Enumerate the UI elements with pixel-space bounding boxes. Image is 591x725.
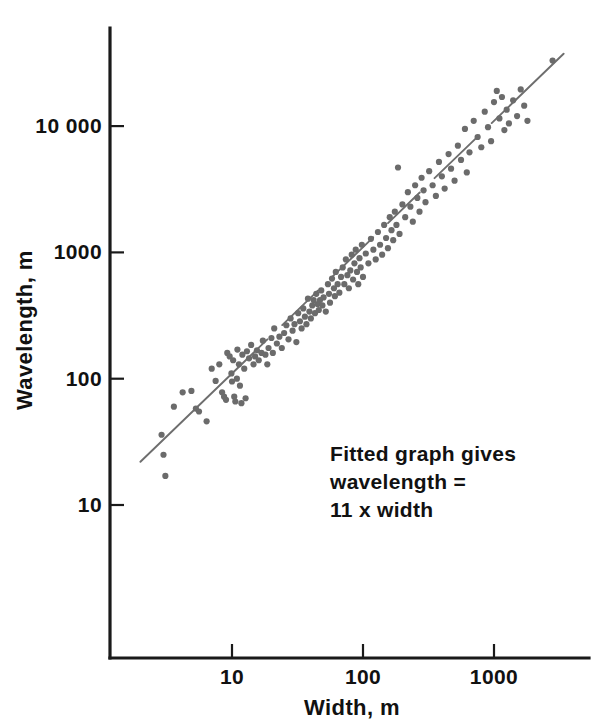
scatter-point bbox=[496, 115, 502, 121]
scatter-point bbox=[349, 252, 355, 258]
scatter-point bbox=[244, 348, 250, 354]
scatter-point bbox=[228, 370, 234, 376]
scatter-point bbox=[305, 296, 311, 302]
x-axis-tick-labels: 101001000 bbox=[220, 665, 518, 688]
scatter-point bbox=[216, 361, 222, 367]
scatter-point bbox=[338, 274, 344, 280]
scatter-point bbox=[420, 187, 426, 193]
scatter-point bbox=[518, 86, 524, 92]
scatter-point bbox=[494, 88, 500, 94]
scatter-point bbox=[363, 250, 369, 256]
scatter-point bbox=[329, 276, 335, 282]
scatter-point bbox=[264, 361, 270, 367]
scatter-point bbox=[333, 269, 339, 275]
scatter-point bbox=[351, 260, 357, 266]
scatter-point bbox=[475, 134, 481, 140]
scatter-point bbox=[270, 350, 276, 356]
fitted-regression-line bbox=[140, 54, 563, 462]
scatter-point bbox=[501, 127, 507, 133]
scatter-point bbox=[223, 397, 229, 403]
scatter-point bbox=[171, 404, 177, 410]
scatter-point bbox=[464, 169, 470, 175]
scatter-point bbox=[510, 97, 516, 103]
scatter-point bbox=[234, 346, 240, 352]
scatter-point bbox=[455, 143, 461, 149]
scatter-point bbox=[549, 58, 555, 64]
scatter-point bbox=[160, 452, 166, 458]
scatter-point bbox=[271, 325, 277, 331]
scatter-point bbox=[451, 178, 457, 184]
scatter-point bbox=[243, 395, 249, 401]
scatter-point bbox=[504, 107, 510, 113]
scatter-point bbox=[375, 229, 381, 235]
scatter-point bbox=[385, 245, 391, 251]
x-tick-label-10: 10 bbox=[220, 665, 244, 688]
scatter-point bbox=[234, 376, 240, 382]
scatter-point bbox=[358, 264, 364, 270]
scatter-point bbox=[232, 398, 238, 404]
scatter-point bbox=[285, 336, 291, 342]
scatter-point bbox=[274, 340, 280, 346]
scatter-point bbox=[319, 302, 325, 308]
scatter-point bbox=[302, 314, 308, 320]
y-axis-title: Wavelength, m bbox=[12, 250, 37, 410]
scatter-point-group bbox=[158, 58, 555, 479]
annotation-line-2: wavelength = bbox=[329, 470, 466, 493]
scatter-point bbox=[326, 291, 332, 297]
scatter-point bbox=[343, 256, 349, 262]
scatter-point bbox=[521, 103, 527, 109]
scatter-point bbox=[237, 383, 243, 389]
scatter-point bbox=[300, 305, 306, 311]
scatter-point bbox=[158, 432, 164, 438]
y-tick-label-1000: 1000 bbox=[54, 240, 102, 263]
scatter-point bbox=[462, 126, 468, 132]
scatter-point bbox=[279, 345, 285, 351]
scatter-point bbox=[327, 300, 333, 306]
scatter-point bbox=[416, 209, 422, 215]
scatter-point bbox=[340, 264, 346, 270]
scatter-point bbox=[458, 157, 464, 163]
scatter-point bbox=[524, 118, 530, 124]
scatter-point bbox=[442, 186, 448, 192]
scatter-point bbox=[230, 357, 236, 363]
scatter-point bbox=[426, 168, 432, 174]
y-tick-label-10: 10 bbox=[78, 493, 102, 516]
scatter-point bbox=[299, 325, 305, 331]
scatter-point bbox=[204, 418, 210, 424]
scatter-point bbox=[188, 388, 194, 394]
scatter-point bbox=[402, 214, 408, 220]
scatter-point bbox=[291, 321, 297, 327]
scatter-point bbox=[325, 281, 331, 287]
scatter-point bbox=[430, 182, 436, 188]
scatter-point bbox=[418, 175, 424, 181]
scatter-point bbox=[303, 321, 309, 327]
scatter-point bbox=[318, 287, 324, 293]
scatter-point bbox=[359, 242, 365, 248]
x-axis-ticks bbox=[232, 644, 494, 658]
scatter-point bbox=[360, 274, 366, 280]
y-tick-label-10000: 10 000 bbox=[35, 114, 102, 137]
scatter-point bbox=[383, 235, 389, 241]
scatter-point bbox=[347, 267, 353, 273]
scatter-point bbox=[506, 120, 512, 126]
scatter-point bbox=[433, 193, 439, 199]
scatter-point bbox=[405, 189, 411, 195]
scatter-point bbox=[410, 219, 416, 225]
scatter-point bbox=[373, 256, 379, 262]
loglog-scatter-plot: 10100100010 000 101001000 Wavelength, m … bbox=[0, 0, 591, 725]
scatter-point bbox=[471, 118, 477, 124]
scatter-point bbox=[256, 357, 262, 363]
scatter-point bbox=[370, 247, 376, 253]
scatter-point bbox=[399, 201, 405, 207]
scatter-point bbox=[356, 255, 362, 261]
y-axis-tick-labels: 10100100010 000 bbox=[35, 114, 102, 516]
scatter-point bbox=[412, 182, 418, 188]
scatter-point bbox=[485, 124, 491, 130]
x-tick-label-100: 100 bbox=[345, 665, 381, 688]
scatter-point bbox=[488, 138, 494, 144]
scatter-point bbox=[392, 209, 398, 215]
scatter-point bbox=[241, 366, 247, 372]
scatter-point bbox=[250, 361, 256, 367]
scatter-point bbox=[436, 159, 442, 165]
scatter-point bbox=[293, 339, 299, 345]
